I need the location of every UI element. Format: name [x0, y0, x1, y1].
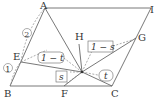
circle-label-2: 2 [23, 29, 32, 39]
box-label-t: t [99, 70, 113, 81]
label-C: C [111, 88, 119, 99]
svg-text:s: s [59, 72, 64, 82]
label-E: E [13, 51, 20, 62]
intersection-point [81, 71, 84, 74]
label-B: B [4, 88, 11, 99]
box-label-s: s [56, 71, 67, 82]
segment-IC [112, 8, 151, 86]
label-H: H [75, 31, 84, 42]
label-A: A [39, 0, 48, 11]
svg-text:1 − s: 1 − s [91, 42, 115, 52]
svg-text:1 − t: 1 − t [41, 53, 64, 63]
box-label-1-minus-t: 1 − t [38, 52, 64, 63]
segment-AB [10, 8, 45, 86]
geometry-diagram: A I B C F E G H 2 1 1 − t 1 − s s t [0, 0, 156, 99]
label-F: F [61, 88, 68, 99]
box-label-1-minus-s: 1 − s [88, 41, 115, 52]
circle-label-1: 1 [4, 64, 13, 74]
label-I: I [150, 4, 154, 15]
svg-text:2: 2 [24, 30, 29, 39]
label-G: G [138, 32, 146, 43]
svg-text:t: t [104, 71, 108, 81]
svg-text:1: 1 [5, 65, 10, 74]
segment-EP [21, 62, 82, 72]
dashed-box1s-G [113, 39, 135, 46]
